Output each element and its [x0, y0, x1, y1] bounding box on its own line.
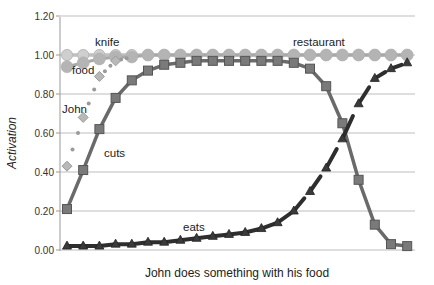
- square-marker: [192, 56, 201, 65]
- circle-marker: [385, 49, 397, 61]
- y-tick-label: 0.60: [35, 128, 55, 139]
- circle-marker: [93, 53, 105, 65]
- dot-marker: [87, 101, 91, 105]
- y-axis-title: Activation: [5, 117, 19, 170]
- square-marker: [338, 119, 347, 128]
- square-marker: [370, 220, 379, 229]
- square-marker: [403, 242, 412, 251]
- circle-marker: [369, 49, 381, 61]
- circle-marker: [320, 49, 332, 61]
- dot-marker: [71, 148, 75, 152]
- square-marker: [63, 205, 72, 214]
- square-marker: [208, 56, 217, 65]
- dot-marker: [103, 69, 107, 73]
- dot-marker: [108, 64, 112, 68]
- square-marker: [111, 93, 120, 102]
- square-marker: [79, 166, 88, 175]
- y-axis-ticks: 0.000.200.400.600.801.001.20: [35, 11, 60, 256]
- square-marker: [144, 66, 153, 75]
- circle-marker: [353, 49, 365, 61]
- activation-line-chart: 0.000.200.400.600.801.001.20 knife resta…: [0, 0, 434, 285]
- square-marker: [95, 125, 104, 134]
- square-marker: [289, 58, 298, 67]
- dot-marker: [125, 56, 129, 60]
- label-cuts: cuts: [104, 147, 125, 159]
- y-tick-label: 0.20: [35, 206, 55, 217]
- y-tick-label: 0.00: [35, 245, 55, 256]
- diamond-marker: [62, 161, 72, 171]
- circle-marker: [62, 50, 73, 61]
- label-eats: eats: [183, 221, 205, 233]
- square-marker: [127, 76, 136, 85]
- y-tick-label: 0.80: [35, 89, 55, 100]
- label-restaurant: restaurant: [293, 36, 346, 48]
- y-tick-label: 0.40: [35, 167, 55, 178]
- square-marker: [160, 60, 169, 69]
- square-marker: [354, 175, 363, 184]
- square-marker: [225, 56, 234, 65]
- circle-marker: [336, 49, 348, 61]
- y-tick-label: 1.20: [35, 11, 55, 22]
- label-john: John: [62, 103, 87, 115]
- square-marker: [387, 240, 396, 249]
- square-marker: [273, 56, 282, 65]
- label-food: food: [72, 64, 94, 76]
- dot-marker: [76, 131, 80, 135]
- dot-marker: [92, 88, 96, 92]
- y-tick-label: 1.00: [35, 50, 55, 61]
- square-marker: [322, 82, 331, 91]
- diamond-marker: [94, 71, 104, 81]
- label-knife: knife: [95, 36, 119, 48]
- circle-marker: [142, 49, 154, 61]
- x-axis-title: John does something with his food: [145, 266, 329, 280]
- square-marker: [257, 56, 266, 65]
- square-marker: [176, 58, 185, 67]
- circle-marker: [304, 49, 316, 61]
- square-marker: [241, 56, 250, 65]
- circle-marker: [158, 49, 170, 61]
- square-marker: [306, 64, 315, 73]
